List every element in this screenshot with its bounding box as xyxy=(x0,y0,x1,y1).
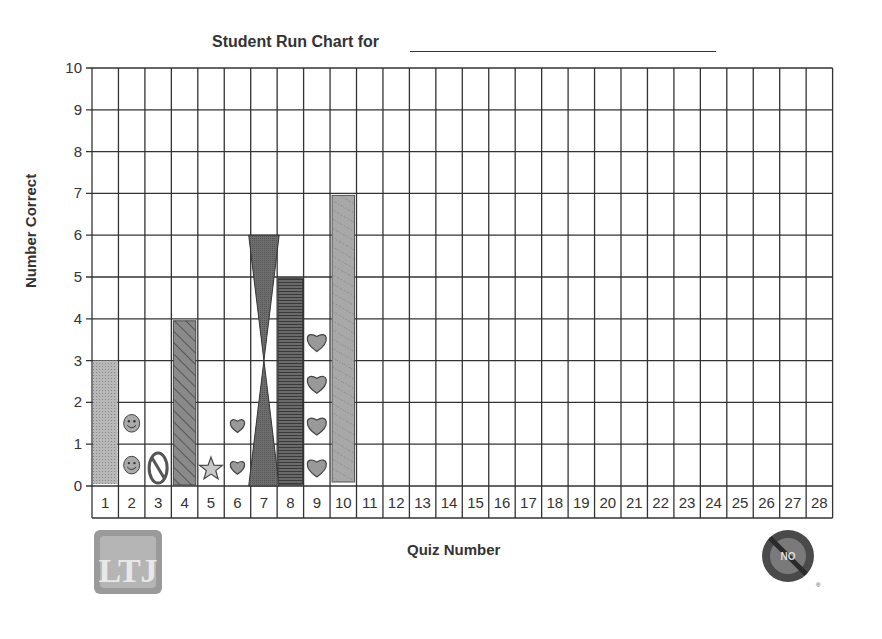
x-tick-label: 20 xyxy=(599,494,616,511)
data-bar-quiz-4 xyxy=(173,321,195,485)
x-tick-label: 14 xyxy=(441,494,458,511)
data-bar-quiz-9 xyxy=(307,335,326,477)
x-tick-label: 15 xyxy=(467,494,484,511)
x-tick-label: 25 xyxy=(732,494,749,511)
x-tick-label: 2 xyxy=(128,494,136,511)
x-tick-label: 17 xyxy=(520,494,537,511)
x-tick-label: 16 xyxy=(494,494,511,511)
data-bar-quiz-10 xyxy=(332,195,354,482)
x-tick-label: 6 xyxy=(233,494,241,511)
x-tick-label: 26 xyxy=(758,494,775,511)
x-tick-label: 5 xyxy=(207,494,215,511)
data-bar-quiz-3 xyxy=(149,453,167,483)
x-tick-label: 8 xyxy=(286,494,294,511)
no-permission-to-forget-logo: NO ® xyxy=(762,530,821,588)
x-tick-label: 21 xyxy=(626,494,643,511)
x-tick-label: 13 xyxy=(414,494,431,511)
x-tick-label: 10 xyxy=(335,494,352,511)
x-tick-label: 28 xyxy=(811,494,828,511)
x-tick-label: 12 xyxy=(388,494,405,511)
ltj-logo: LTJ xyxy=(94,530,162,594)
x-tick-label: 11 xyxy=(362,494,378,511)
x-tick-label: 27 xyxy=(785,494,802,511)
x-tick-label: 22 xyxy=(652,494,669,511)
x-tick-label: 9 xyxy=(313,494,321,511)
data-bar-quiz-1 xyxy=(93,361,117,484)
x-tick-label: 3 xyxy=(154,494,162,511)
run-chart: 1234567891011121314151617181920212223242… xyxy=(0,0,882,639)
svg-text:NO: NO xyxy=(781,551,796,562)
svg-text:LTJ: LTJ xyxy=(98,552,157,589)
x-tick-label: 19 xyxy=(573,494,590,511)
x-tick-label: 23 xyxy=(679,494,696,511)
x-tick-label: 1 xyxy=(101,494,109,511)
data-bar-quiz-8 xyxy=(278,278,302,485)
x-tick-label: 7 xyxy=(260,494,268,511)
data-bar-quiz-6 xyxy=(230,420,244,474)
x-tick-label: 4 xyxy=(180,494,188,511)
svg-text:®: ® xyxy=(816,582,821,588)
data-bar-quiz-5 xyxy=(200,457,223,479)
x-tick-label: 24 xyxy=(705,494,722,511)
x-tick-label: 18 xyxy=(547,494,564,511)
